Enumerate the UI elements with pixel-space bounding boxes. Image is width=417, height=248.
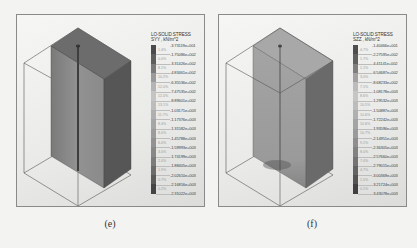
- color-bar-segment: [353, 157, 358, 166]
- legend-value: -3.43078e+003: [372, 191, 398, 196]
- legend-tick: [156, 175, 170, 176]
- legend-percent: 10.6%: [360, 113, 370, 117]
- block-side-face: [104, 61, 131, 188]
- legend-value: -4.83461e+002: [170, 70, 196, 75]
- legend-percent: 7.1%: [360, 85, 368, 89]
- legend-value: -2.14951e+003: [372, 136, 398, 141]
- color-bar-segment: [353, 166, 358, 175]
- legend-percent: 1.1%: [360, 66, 368, 70]
- legend-value: -7.47535e+002: [170, 89, 196, 94]
- color-bar-segment: [353, 147, 358, 156]
- legend-value: -3.00369e+003: [372, 173, 398, 178]
- block-side-face: [306, 61, 333, 188]
- color-bar-segment: [151, 101, 156, 110]
- legend-value: -2.16816e+003: [170, 182, 196, 187]
- legend-value: -1.74199e+003: [170, 154, 196, 159]
- legend-percent: 2.0%: [158, 159, 166, 163]
- legend-tick: [156, 129, 170, 130]
- legend-value: -1.45788e+003: [170, 136, 196, 141]
- legend-scale: -3.73119e+001-1.75086e+002-3.31426e+002-…: [151, 43, 205, 203]
- legend-percent: 1.4%: [158, 48, 166, 52]
- legend-percent: 8.0%: [158, 131, 166, 135]
- legend-tick: [358, 175, 372, 176]
- color-bar-segment: [151, 91, 156, 100]
- legend-percent: 0.2%: [158, 187, 166, 191]
- legend-subtitle: SYY , kN/m^2: [151, 37, 205, 42]
- legend-percent: 6.0%: [158, 141, 166, 145]
- legend-tick: [156, 64, 170, 65]
- legend-value: -2.31022e+003: [170, 191, 196, 196]
- color-bar-segment: [353, 64, 358, 73]
- color-bar-segment: [353, 129, 358, 138]
- legend-percent: 3.0%: [158, 150, 166, 154]
- legend-subtitle: SZZ , kN/m^2: [353, 37, 407, 42]
- color-bar-segment: [151, 119, 156, 128]
- legend-percent: 0.7%: [158, 178, 166, 182]
- legend-tick: [358, 64, 372, 65]
- legend-tick: [358, 73, 372, 74]
- caption-f: (f): [292, 218, 332, 229]
- legend-percent: 4.7%: [360, 168, 368, 172]
- legend-percent: 8.6%: [360, 94, 368, 98]
- color-bar-segment: [151, 64, 156, 73]
- legend-tick: [358, 185, 372, 186]
- panel-f-szz-stress: LO-SOLID STRESS SZZ , kN/m^2 -1.40466e+0…: [218, 14, 407, 207]
- legend-tick: [358, 129, 372, 130]
- legend-value: -1.72242e+003: [372, 117, 398, 122]
- color-legend-e: LO-SOLID STRESS SYY , kN/m^2 -3.73119e+0…: [151, 32, 205, 203]
- legend-tick: [156, 54, 170, 55]
- legend-percent: 8.4%: [158, 122, 166, 126]
- legend-percent: 12.0%: [158, 85, 168, 89]
- color-bar-segment: [151, 129, 156, 138]
- legend-tick: [156, 157, 170, 158]
- legend-tick: [358, 54, 372, 55]
- legend-percent: 11.7%: [158, 113, 168, 117]
- panel-e-syy-stress: LO-SOLID STRESS SYY , kN/m^2 -3.73119e+0…: [16, 14, 205, 207]
- color-bar-segment: [353, 110, 358, 119]
- legend-percent: 13.1%: [158, 103, 168, 107]
- legend-tick: [156, 185, 170, 186]
- color-bar-segment: [353, 73, 358, 82]
- color-bar-segment: [353, 101, 358, 110]
- legend-value: -1.59993e+003: [170, 145, 196, 150]
- legend-tick: [358, 101, 372, 102]
- legend-value: -2.79015e+003: [372, 163, 398, 168]
- legend-percent: 10.5%: [360, 103, 370, 107]
- legend-value: -2.36305e+003: [372, 145, 398, 150]
- legend-value: -1.40466e+001: [372, 43, 398, 48]
- legend-percent: 0.0%: [158, 57, 166, 61]
- legend-tick: [156, 73, 170, 74]
- legend-scale: -1.40466e+001-2.27595e+002-4.41141e+002-…: [353, 43, 407, 203]
- legend-value: -8.68233e+002: [372, 80, 398, 85]
- color-bar-segment: [353, 82, 358, 91]
- legend-percent: 3.0%: [360, 75, 368, 79]
- legend-value: -1.75086e+002: [170, 52, 196, 57]
- color-bar-segment: [151, 82, 156, 91]
- legend-value: -3.31426e+002: [170, 61, 196, 66]
- legend-tick: [358, 157, 372, 158]
- color-bar-segment: [151, 184, 156, 193]
- legend-percent: 8.0%: [360, 150, 368, 154]
- color-bar-segment: [353, 54, 358, 63]
- color-bar-segment: [353, 45, 358, 54]
- legend-tick: [358, 110, 372, 111]
- legend-tick: [358, 92, 372, 93]
- color-bar-segment: [151, 157, 156, 166]
- legend-tick: [156, 110, 170, 111]
- legend-percent: 4.7%: [360, 48, 368, 52]
- legend-tick: [358, 138, 372, 139]
- legend-value: -1.93596e+003: [372, 126, 398, 131]
- legend-tick: [156, 138, 170, 139]
- legend-value: -1.50887e+003: [372, 108, 398, 113]
- legend-tick: [156, 82, 170, 83]
- legend-tick: [156, 166, 170, 167]
- legend-tick: [358, 166, 372, 167]
- legend-percent: 0.1%: [360, 187, 368, 191]
- color-bar-segment: [151, 147, 156, 156]
- caption-e: (e): [90, 218, 130, 229]
- legend-value: -1.03171e+003: [170, 108, 196, 113]
- legend-tick: [358, 147, 372, 148]
- legend-value: -1.31582e+003: [170, 126, 196, 131]
- legend-percent: 1.5%: [360, 178, 368, 182]
- legend-percent: 9.1%: [360, 141, 368, 145]
